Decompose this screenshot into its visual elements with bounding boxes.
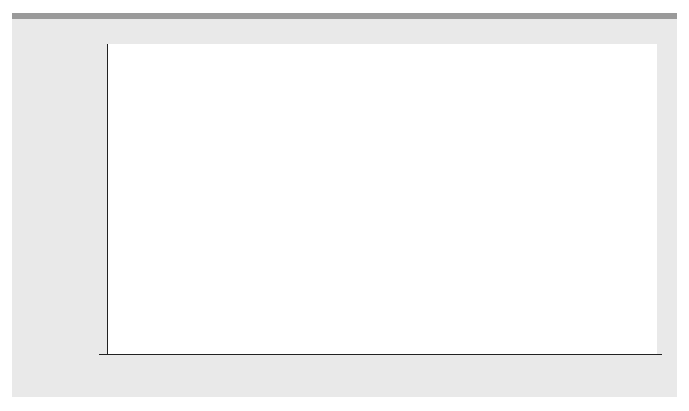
x-axis-line bbox=[99, 354, 662, 355]
header-band bbox=[12, 13, 677, 19]
plot-area bbox=[107, 44, 657, 354]
y-axis-line bbox=[107, 44, 108, 355]
